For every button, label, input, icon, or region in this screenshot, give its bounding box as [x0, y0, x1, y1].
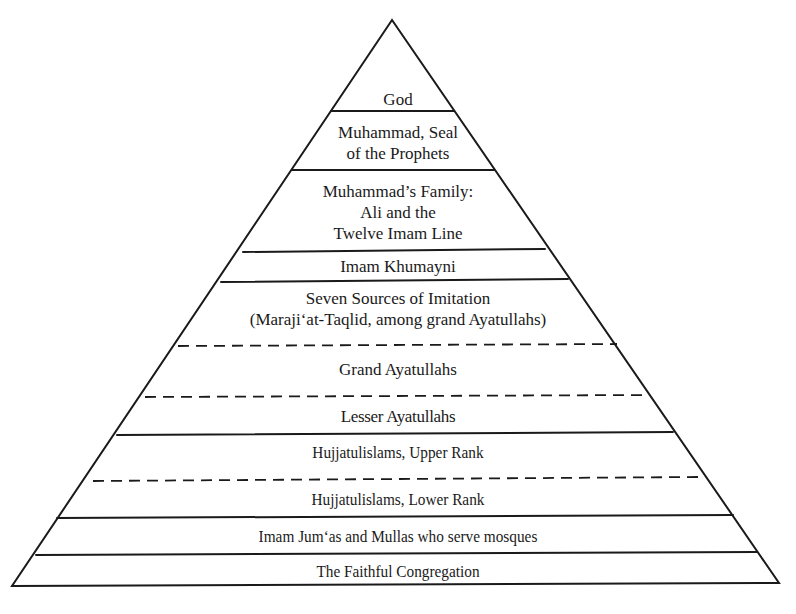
- tier-label: God: [0, 89, 796, 110]
- tier-label: Imam Khumayni: [0, 256, 796, 277]
- tier-label: Hujjatulislams, Lower Rank: [40, 489, 756, 510]
- tier-grand-ayatullahs: Grand Ayatullahs: [0, 359, 796, 380]
- divider-grand-lesser: [145, 395, 650, 397]
- divider-sources-grand: [178, 344, 617, 346]
- tier-god: God: [0, 89, 796, 110]
- tier-label: Seven Sources of Imitation: [0, 288, 796, 309]
- pyramid-diagram: God Muhammad, Seal of the Prophets Muham…: [0, 0, 796, 614]
- divider-jumas-congregation: [36, 552, 757, 555]
- tier-hujjatulislams-upper: Hujjatulislams, Upper Rank: [40, 442, 756, 463]
- tier-lesser-ayatullahs: Lesser Ayatullahs: [0, 406, 796, 427]
- divider-upper-lower: [93, 477, 700, 481]
- divider-khumayni-sources: [221, 279, 568, 282]
- tier-family: Muhammad’s Family: Ali and the Twelve Im…: [0, 181, 796, 244]
- tier-muhammad: Muhammad, Seal of the Prophets: [0, 122, 796, 164]
- tier-imam-jumas: Imam Jum‘as and Mullas who serve mosques: [40, 526, 756, 547]
- tier-label: Twelve Imam Line: [0, 223, 796, 244]
- tier-khumayni: Imam Khumayni: [0, 256, 796, 277]
- divider-lesser-upper: [117, 432, 673, 435]
- divider-family-khumayni: [243, 249, 545, 252]
- tier-label: Muhammad’s Family:: [0, 181, 796, 202]
- tier-label: Hujjatulislams, Upper Rank: [40, 442, 756, 463]
- tier-label: The Faithful Congregation: [40, 561, 756, 582]
- tier-label: Muhammad, Seal: [0, 122, 796, 143]
- tier-label: Imam Jum‘as and Mullas who serve mosques: [40, 526, 756, 547]
- tier-congregation: The Faithful Congregation: [40, 561, 756, 582]
- tier-label: (Maraji‘at-Taqlid, among grand Ayatullah…: [0, 309, 796, 330]
- tier-hujjatulislams-lower: Hujjatulislams, Lower Rank: [40, 489, 756, 510]
- tier-label: of the Prophets: [0, 143, 796, 164]
- tier-label: Lesser Ayatullahs: [0, 406, 796, 427]
- divider-lower-jumas: [57, 515, 733, 518]
- tier-label: Grand Ayatullahs: [0, 359, 796, 380]
- tier-label: Ali and the: [0, 202, 796, 223]
- tier-sources: Seven Sources of Imitation (Maraji‘at-Ta…: [0, 288, 796, 330]
